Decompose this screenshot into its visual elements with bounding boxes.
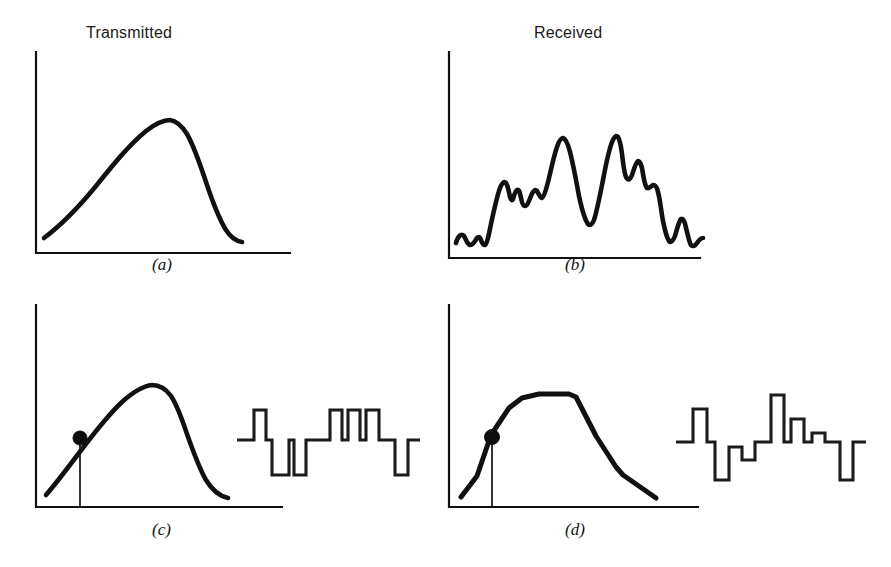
panel-d-axes bbox=[449, 305, 698, 507]
panel-d-sample-dot bbox=[485, 430, 500, 445]
figure-container: Transmitted (a) Received (b) (c) bbox=[0, 0, 891, 567]
panel-d-label: (d) bbox=[565, 520, 585, 540]
panel-d-digital-waveform bbox=[676, 395, 866, 480]
panel-d-plot bbox=[0, 295, 891, 535]
panel-b-plot bbox=[0, 0, 891, 280]
panel-b-label: (b) bbox=[565, 255, 585, 275]
panel-d-envelope-curve bbox=[461, 394, 656, 498]
panel-b-noisy-curve bbox=[456, 136, 703, 246]
